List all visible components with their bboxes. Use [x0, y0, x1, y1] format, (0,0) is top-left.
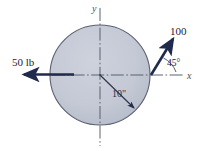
force-left-label: 50 lb	[12, 57, 34, 68]
disk-center-point	[99, 74, 101, 76]
force-upper-right-label: 100	[170, 26, 187, 37]
y-axis-label: y	[92, 4, 96, 14]
force-upper-right-arrow	[151, 39, 173, 75]
x-axis-label: x	[187, 71, 191, 81]
angle-45-label: 45°	[167, 59, 180, 69]
figure-vector-graphics	[0, 0, 201, 151]
disk-dimension-label: 10"	[112, 89, 126, 99]
figure-canvas: y x 100 50 lb 45° 10"	[0, 0, 201, 151]
